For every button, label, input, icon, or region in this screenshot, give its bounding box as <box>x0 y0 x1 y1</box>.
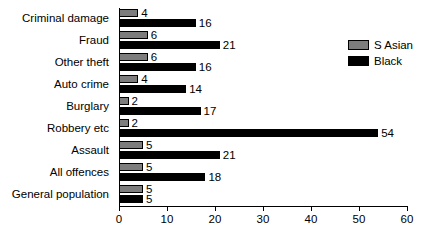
bar-value-label: 18 <box>208 172 221 183</box>
bar-s-asian <box>119 9 138 17</box>
category-label: Criminal damage <box>0 12 109 24</box>
bar-group: 217 <box>119 97 407 119</box>
legend-label: S Asian <box>374 39 413 51</box>
x-axis-tick-label: 40 <box>305 213 318 225</box>
bar-value-label: 54 <box>381 128 394 139</box>
bar-value-label: 6 <box>151 30 157 41</box>
x-axis-tick-label: 10 <box>161 213 174 225</box>
bar-black <box>119 195 143 203</box>
x-axis-tick <box>167 206 168 211</box>
bar-value-label: 2 <box>132 96 138 107</box>
category-label: General population <box>0 188 109 200</box>
bar-black <box>119 151 220 159</box>
bar-value-label: 5 <box>146 194 152 205</box>
bar-value-label: 16 <box>199 62 212 73</box>
category-axis-labels: Criminal damageFraudOther theftAuto crim… <box>0 8 113 206</box>
bar-value-label: 5 <box>146 140 152 151</box>
x-axis-tick <box>311 206 312 211</box>
x-axis-tick <box>407 206 408 211</box>
legend-item: S Asian <box>348 38 428 51</box>
x-axis-tick-label: 0 <box>116 213 122 225</box>
chart-legend: S AsianBlack <box>348 38 428 70</box>
category-label: Robbery etc <box>0 122 109 134</box>
y-axis-line <box>119 8 120 206</box>
legend-swatch-icon <box>348 40 369 50</box>
bar-group: 518 <box>119 163 407 185</box>
x-axis-tick <box>119 206 120 211</box>
bar-group: 521 <box>119 141 407 163</box>
legend-swatch-icon <box>348 56 369 66</box>
bar-value-label: 16 <box>199 18 212 29</box>
x-axis-tick <box>359 206 360 211</box>
category-label: Burglary <box>0 100 109 112</box>
x-axis-tick <box>215 206 216 211</box>
bar-s-asian <box>119 75 138 83</box>
bar-black <box>119 19 196 27</box>
bar-value-label: 6 <box>151 52 157 63</box>
bar-value-label: 14 <box>189 84 202 95</box>
bar-s-asian <box>119 185 143 193</box>
bar-black <box>119 173 205 181</box>
bar-s-asian <box>119 31 148 39</box>
bar-group: 414 <box>119 75 407 97</box>
bar-s-asian <box>119 97 129 105</box>
legend-label: Black <box>374 55 402 67</box>
x-axis-tick <box>263 206 264 211</box>
bar-group: 55 <box>119 185 407 207</box>
x-axis-tick-label: 20 <box>209 213 222 225</box>
bar-black <box>119 129 378 137</box>
bar-s-asian <box>119 53 148 61</box>
bar-chart: Criminal damageFraudOther theftAuto crim… <box>0 0 429 247</box>
bar-s-asian <box>119 163 143 171</box>
x-axis-tick-label: 50 <box>353 213 366 225</box>
category-label: All offences <box>0 166 109 178</box>
bar-s-asian <box>119 119 129 127</box>
bar-black <box>119 41 220 49</box>
bar-value-label: 2 <box>132 118 138 129</box>
x-axis-tick-label: 60 <box>401 213 414 225</box>
category-label: Assault <box>0 144 109 156</box>
bar-group: 416 <box>119 9 407 31</box>
x-axis-tick-label: 30 <box>257 213 270 225</box>
bar-value-label: 21 <box>223 40 236 51</box>
legend-item: Black <box>348 54 428 67</box>
bar-black <box>119 107 201 115</box>
category-label: Auto crime <box>0 78 109 90</box>
bar-value-label: 4 <box>141 74 147 85</box>
bar-value-label: 4 <box>141 8 147 19</box>
bar-black <box>119 63 196 71</box>
category-label: Fraud <box>0 34 109 46</box>
category-label: Other theft <box>0 56 109 68</box>
bar-s-asian <box>119 141 143 149</box>
bar-value-label: 5 <box>146 162 152 173</box>
bar-value-label: 21 <box>223 150 236 161</box>
bar-value-label: 17 <box>204 106 217 117</box>
bar-group: 254 <box>119 119 407 141</box>
bar-black <box>119 85 186 93</box>
